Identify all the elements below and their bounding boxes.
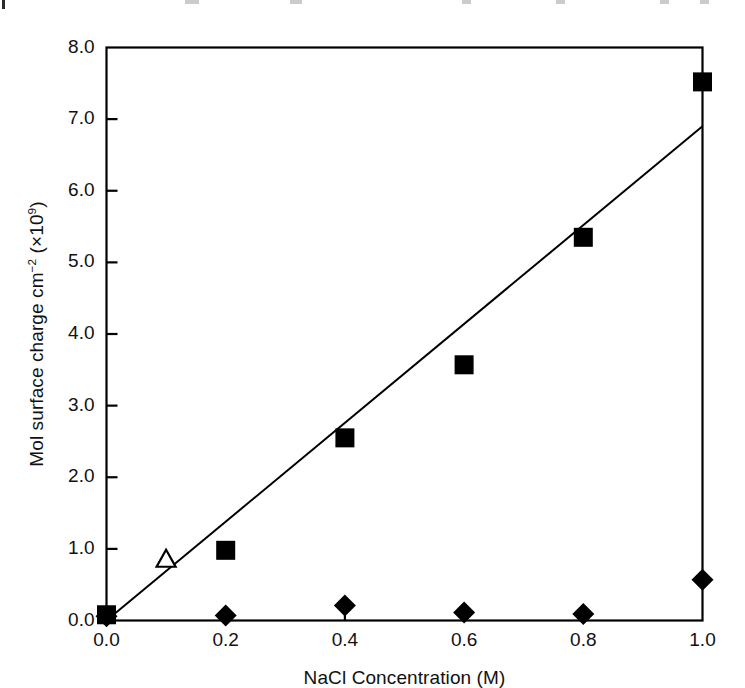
open-triangle-series-point-0 — [157, 550, 176, 567]
filled-square-series-point-4 — [574, 228, 593, 247]
y-tick-label-5: 5.0 — [11, 250, 95, 272]
y-tick-label-8: 8.0 — [11, 36, 95, 58]
scatter-plot-figure: Mol surface charge cm−2 (×109) NaCl Conc… — [0, 0, 745, 688]
y-axis-title-end: ) — [26, 201, 47, 207]
filled-diamond-series-point-2 — [334, 594, 356, 616]
y-axis-title-main: Mol surface charge cm — [26, 272, 47, 466]
linear-fit-line — [107, 126, 703, 620]
x-tick-label-0.6: 0.6 — [414, 629, 514, 651]
x-tick-label-0: 0.0 — [57, 629, 157, 651]
x-axis-title: NaCl Concentration (M) — [304, 667, 506, 688]
y-tick-label-6: 6.0 — [11, 179, 95, 201]
y-tick-label-2: 2.0 — [11, 465, 95, 487]
y-tick-label-1: 1.0 — [11, 537, 95, 559]
x-tick-label-0.2: 0.2 — [176, 629, 276, 651]
data-markers — [96, 72, 714, 627]
x-tick-label-0.4: 0.4 — [295, 629, 395, 651]
filled-square-series-point-1 — [216, 541, 235, 560]
filled-square-series-point-2 — [335, 428, 354, 447]
filled-diamond-series-point-4 — [572, 603, 594, 625]
trend-line — [107, 126, 703, 620]
x-tick-label-0.8: 0.8 — [533, 629, 633, 651]
filled-diamond-series-point-1 — [215, 604, 237, 626]
y-tick-label-0: 0.0 — [11, 609, 95, 631]
y-tick-label-3: 3.0 — [11, 394, 95, 416]
y-tick-label-7: 7.0 — [11, 107, 95, 129]
plot-frame-box — [107, 48, 703, 621]
filled-square-series-point-3 — [455, 355, 474, 374]
filled-square-series-point-5 — [693, 72, 712, 91]
plot-frame — [107, 48, 703, 621]
y-tick-label-4: 4.0 — [11, 322, 95, 344]
filled-diamond-series-point-5 — [692, 569, 714, 591]
x-tick-label-1: 1.0 — [653, 629, 745, 651]
y-axis-title-exponent-9: 9 — [25, 208, 38, 215]
axis-ticks — [107, 119, 584, 620]
plot-canvas — [0, 0, 745, 688]
